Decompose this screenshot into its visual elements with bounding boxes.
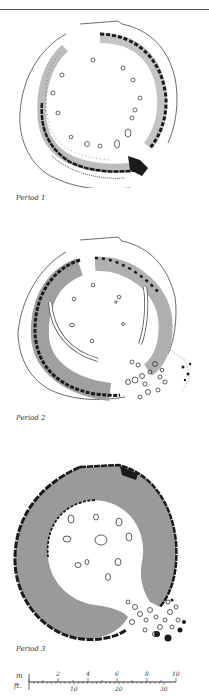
scale-bar: m ft. 2 4 6 8 10 10 20 30: [14, 672, 184, 694]
scale-tick-m-4: 4: [86, 670, 90, 677]
running-header: · · · · · · · · · · · · ·: [55, 0, 155, 1]
scale-ruler: [14, 672, 184, 694]
plan-period-3: Period 3: [0, 462, 209, 642]
header-rule: [0, 9, 209, 10]
period-2-label: Period 2: [16, 414, 46, 422]
scale-tick-ft-30: 30: [160, 685, 168, 692]
scale-tick-m-8: 8: [145, 670, 149, 677]
roundhouse-plan-period-2: [0, 232, 209, 402]
scale-tick-m-6: 6: [115, 670, 119, 677]
scale-tick-m-2: 2: [56, 670, 60, 677]
scale-tick-m-10: 10: [172, 670, 180, 677]
period-3-label: Period 3: [16, 645, 46, 653]
scale-tick-ft-10: 10: [70, 685, 78, 692]
roundhouse-plan-period-3: [0, 462, 209, 642]
roundhouse-plan-period-1: [0, 18, 209, 188]
period-1-label: Period 1: [16, 194, 46, 202]
plan-period-2: Period 2: [0, 232, 209, 402]
scale-tick-ft-20: 20: [115, 685, 123, 692]
plan-period-1: Period 1: [0, 18, 209, 188]
